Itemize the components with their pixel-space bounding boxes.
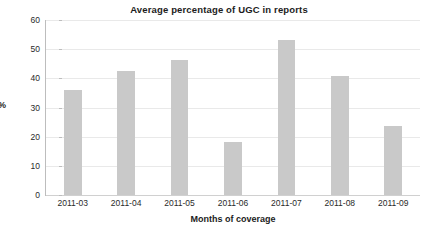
bar-2011-03[interactable] (64, 90, 82, 195)
y-axis-tick-label: 10 (16, 161, 40, 171)
x-axis-title: Months of coverage (46, 214, 420, 224)
x-axis-tick-label: 2011-09 (367, 198, 420, 208)
y-axis-tick-label: 0 (16, 190, 40, 200)
x-axis-tick-label: 2011-06 (206, 198, 259, 208)
bar-2011-08[interactable] (331, 76, 349, 195)
y-axis-tick-label: 60 (16, 15, 40, 25)
bar-slot (313, 20, 366, 195)
bar-2011-04[interactable] (117, 71, 135, 195)
x-axis-tick-labels: 2011-032011-042011-052011-062011-072011-… (46, 198, 420, 208)
y-axis-tick-label: 30 (16, 103, 40, 113)
x-axis-tick-label: 2011-05 (153, 198, 206, 208)
y-axis-tick-label: 40 (16, 73, 40, 83)
chart-title: Average percentage of UGC in reports (0, 4, 438, 15)
y-axis-tick-label: 20 (16, 132, 40, 142)
bar-series (46, 20, 420, 195)
gridline (46, 195, 420, 196)
chart-figure: Average percentage of UGC in reports % 0… (0, 0, 438, 242)
bar-2011-09[interactable] (384, 126, 402, 195)
bar-slot (367, 20, 420, 195)
bar-slot (153, 20, 206, 195)
bar-2011-07[interactable] (278, 40, 296, 195)
x-axis-tick-label: 2011-07 (260, 198, 313, 208)
y-axis-tick-mark (59, 195, 62, 196)
y-axis-tick-labels: 0102030405060 (14, 20, 40, 195)
bar-slot (46, 20, 99, 195)
bar-2011-05[interactable] (171, 60, 189, 195)
bar-slot (99, 20, 152, 195)
y-axis-tick-label: 50 (16, 44, 40, 54)
x-axis-tick-label: 2011-03 (46, 198, 99, 208)
y-axis-title: % (0, 100, 6, 110)
bar-slot (206, 20, 259, 195)
bar-2011-06[interactable] (224, 142, 242, 195)
bar-slot (260, 20, 313, 195)
x-axis-tick-label: 2011-08 (313, 198, 366, 208)
x-axis-tick-label: 2011-04 (99, 198, 152, 208)
